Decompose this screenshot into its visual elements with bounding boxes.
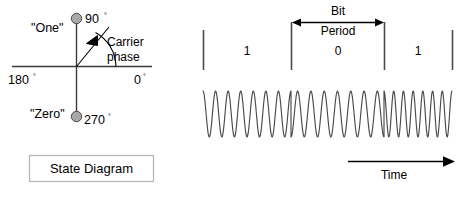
time-axis-label: Time xyxy=(381,168,408,182)
label-270-degrees: 270 xyxy=(84,113,105,127)
carrier-phase-label-line1: Carrier xyxy=(107,35,144,49)
label-zero: "Zero" xyxy=(30,107,65,121)
carrier-phase-arrowhead-icon xyxy=(87,36,98,46)
label-90-degrees: 90 xyxy=(85,12,99,26)
carrier-phase-ray xyxy=(77,27,110,67)
bit-period-arrow-left-icon xyxy=(292,19,301,27)
bit-period-label-line1: Bit xyxy=(331,4,346,18)
constellation-point-zero xyxy=(71,111,81,121)
bit-value-2: 1 xyxy=(415,44,422,58)
degree-symbol-90: ° xyxy=(104,12,107,19)
bit-period-arrow-right-icon xyxy=(375,19,384,27)
constellation-point-one xyxy=(71,13,81,23)
label-0-degrees: 0 xyxy=(134,73,141,87)
time-axis-arrowhead-icon xyxy=(443,156,455,167)
bit-period-label-line2: Period xyxy=(321,24,356,38)
bit-value-0: 1 xyxy=(244,44,251,58)
degree-symbol-270: ° xyxy=(108,113,111,120)
label-180-degrees: 180 xyxy=(8,73,29,87)
bit-value-1: 0 xyxy=(335,44,342,58)
state-diagram-panel: "One" 90 ° "Zero" 270 ° 180 ° 0 ° Carrie… xyxy=(0,0,470,197)
bpsk-figure: "One" 90 ° "Zero" 270 ° 180 ° 0 ° Carrie… xyxy=(0,0,470,197)
degree-symbol-0: ° xyxy=(143,73,146,80)
degree-symbol-180: ° xyxy=(33,73,36,80)
label-one: "One" xyxy=(31,21,64,35)
carrier-waveform xyxy=(203,91,452,137)
carrier-phase-label-line2: phase xyxy=(107,50,140,64)
state-diagram-caption: State Diagram xyxy=(50,161,133,176)
